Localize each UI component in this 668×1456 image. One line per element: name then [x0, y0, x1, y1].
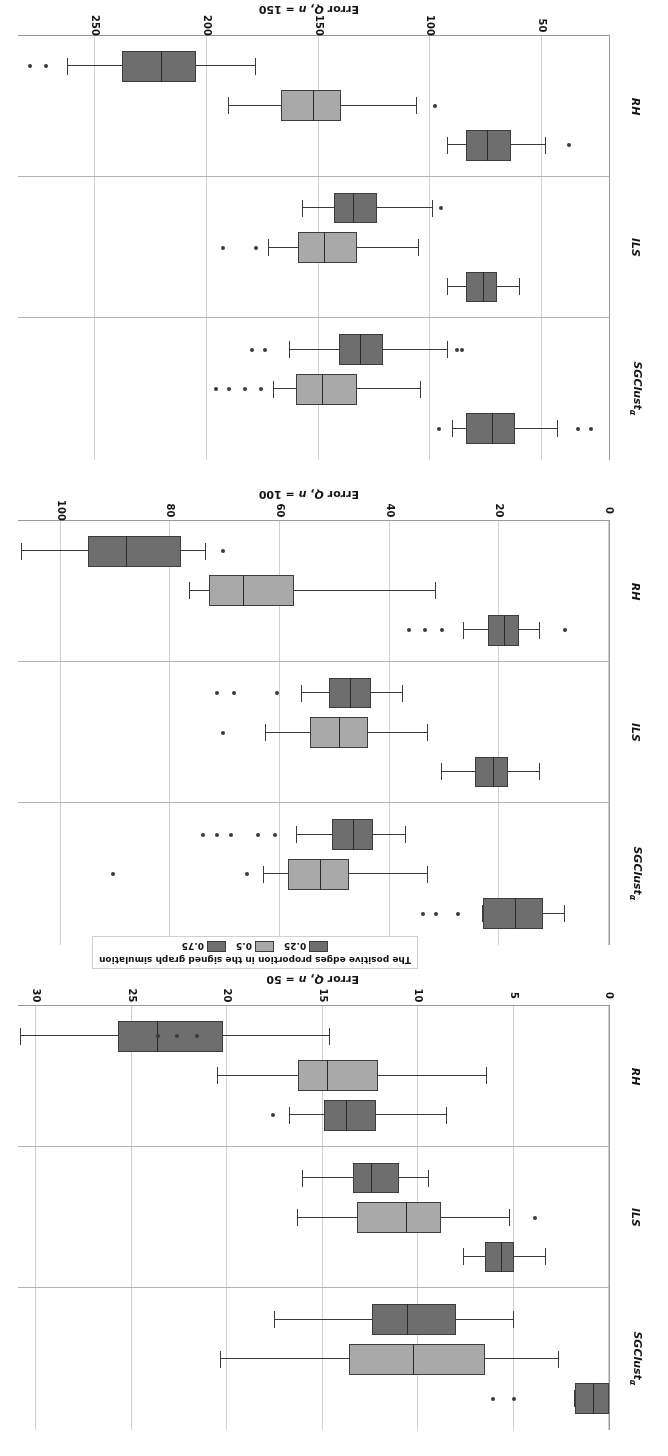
- category-separator: [18, 176, 609, 177]
- category-label-rh: RH: [630, 66, 643, 146]
- whisker-high: [298, 1217, 357, 1218]
- box-iqr: [334, 193, 376, 224]
- median-line: [161, 51, 162, 82]
- whisker-cap-low: [539, 622, 540, 639]
- legend-swatch-icon: [309, 941, 328, 952]
- whisker-low: [519, 629, 541, 630]
- legend-item-0-75[interactable]: 0.75: [182, 941, 226, 952]
- whisker-cap-low: [558, 1351, 559, 1368]
- whisker-cap-low: [255, 58, 256, 75]
- category-label-ils: ILS: [630, 208, 643, 288]
- box-iqr: [288, 859, 348, 890]
- whisker-cap-low: [486, 1067, 487, 1084]
- category-separator: [18, 1287, 609, 1288]
- box-iqr: [339, 334, 384, 365]
- median-line: [504, 615, 505, 646]
- outlier-point: [44, 65, 48, 69]
- whisker-high: [464, 629, 489, 630]
- median-line: [313, 91, 314, 122]
- whisker-cap-high: [228, 97, 229, 114]
- whisker-low: [373, 834, 406, 835]
- whisker-cap-high: [268, 239, 269, 256]
- outlier-point: [437, 427, 441, 431]
- whisker-high: [303, 1177, 353, 1178]
- outlier-point: [563, 628, 567, 632]
- legend-item-0-25[interactable]: 0.25: [284, 941, 328, 952]
- category-label-sgclust: SGClustα: [628, 1319, 643, 1399]
- whisker-cap-high: [265, 724, 266, 741]
- x-tick-label: 80: [166, 491, 177, 531]
- box-iqr: [122, 51, 196, 82]
- box-iqr: [466, 130, 511, 161]
- whisker-cap-low: [545, 1248, 546, 1265]
- whisker-high: [274, 388, 296, 389]
- box-iqr: [281, 91, 341, 122]
- x-tick-label: 40: [385, 491, 396, 531]
- legend-label: 0.5: [236, 942, 252, 952]
- outlier-point: [215, 691, 219, 695]
- whisker-high: [297, 834, 333, 835]
- boxplot-n50-sgclust-0.75: [17, 1383, 609, 1414]
- box-iqr: [466, 272, 497, 303]
- x-tick-label: 100: [56, 491, 67, 531]
- x-tick-label: 200: [202, 6, 213, 46]
- whisker-cap-high: [302, 200, 303, 217]
- whisker-cap-high: [289, 1107, 290, 1124]
- median-line: [483, 272, 484, 303]
- median-line: [501, 1242, 502, 1273]
- whisker-low: [196, 66, 256, 67]
- whisker-cap-high: [21, 543, 22, 560]
- whisker-low: [341, 105, 417, 106]
- outlier-point: [227, 387, 231, 391]
- whisker-low: [515, 428, 557, 429]
- boxplot-n50-rh-0.75: [17, 1100, 609, 1131]
- whisker-low: [508, 771, 541, 772]
- outlier-point: [221, 550, 225, 554]
- whisker-low: [456, 1319, 513, 1320]
- outlier-point: [259, 387, 263, 391]
- x-tick-label: 20: [223, 976, 234, 1016]
- whisker-high: [21, 1036, 118, 1037]
- category-label-sgclust: SGClustα: [628, 349, 643, 429]
- whisker-cap-high: [67, 58, 68, 75]
- box-iqr: [483, 898, 543, 929]
- whisker-cap-high: [447, 137, 448, 154]
- x-tick-label: 250: [91, 6, 102, 46]
- whisker-low: [514, 1256, 546, 1257]
- boxplot-n150-ils-0.75: [17, 272, 609, 303]
- legend-item-0-5[interactable]: 0.5: [236, 941, 274, 952]
- median-line: [413, 1344, 414, 1375]
- boxplot-n150-rh-0.5: [17, 91, 609, 122]
- outlier-point: [589, 427, 593, 431]
- boxplot-n150-sgclust-0.5: [17, 374, 609, 405]
- x-axis-title-n150: Error Q, n = 150: [259, 3, 359, 16]
- box-iqr: [324, 1100, 376, 1131]
- x-axis-line: [18, 35, 609, 36]
- whisker-low: [368, 732, 428, 733]
- outlier-point: [221, 246, 225, 250]
- legend-swatch-icon: [255, 941, 274, 952]
- whisker-cap-low: [205, 543, 206, 560]
- whisker-high: [218, 1075, 298, 1076]
- boxplot-n150-ils-0.25: [17, 193, 609, 224]
- whisker-cap-high: [217, 1067, 218, 1084]
- whisker-low: [543, 913, 565, 914]
- median-line: [371, 1163, 372, 1194]
- median-line: [515, 898, 516, 929]
- whisker-cap-low: [427, 724, 428, 741]
- x-tick-label: 0: [605, 976, 616, 1016]
- median-line: [407, 1304, 408, 1335]
- whisker-cap-low: [545, 137, 546, 154]
- outlier-point: [215, 833, 219, 837]
- panel-n50: 051015202530Error Q, n = 50SGClustαILSRH: [0, 971, 668, 1456]
- whisker-low: [294, 590, 437, 591]
- boxplot-n50-ils-0.5: [17, 1202, 609, 1233]
- box-iqr: [372, 1304, 456, 1335]
- category-separator: [18, 802, 609, 803]
- boxplot-n50-sgclust-0.25: [17, 1304, 609, 1335]
- outlier-point: [201, 833, 205, 837]
- median-line: [353, 819, 354, 850]
- whisker-low: [511, 144, 547, 145]
- whisker-low: [399, 1177, 430, 1178]
- median-line: [327, 1061, 328, 1092]
